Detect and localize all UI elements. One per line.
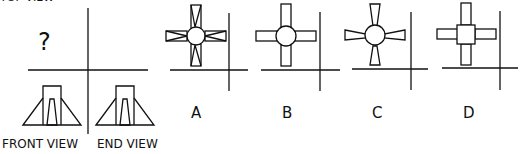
option-b-label[interactable]: B [282, 104, 292, 122]
diagram-canvas [0, 0, 520, 154]
option-d-figure [437, 3, 518, 90]
end-view-label: END VIEW [97, 137, 158, 151]
option-a-figure [166, 5, 248, 91]
option-b-figure [256, 4, 340, 91]
front-view-label: FRONT VIEW [2, 137, 78, 151]
option-a-label[interactable]: A [191, 104, 201, 122]
option-c-figure [345, 4, 428, 90]
end-view-figure [96, 86, 154, 125]
unknown-top-view-marker: ? [38, 28, 51, 56]
orthographic-projection-puzzle: TOP VIEW [0, 0, 520, 154]
option-c-label[interactable]: C [372, 104, 382, 122]
option-d-label[interactable]: D [463, 104, 475, 122]
front-view-figure [23, 86, 81, 125]
